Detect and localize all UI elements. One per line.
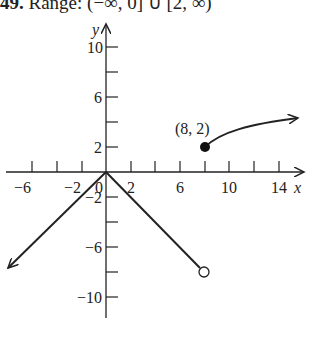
x-tick-labels: −6 −2 0 2 6 10 14 x bbox=[14, 179, 301, 196]
svg-text:10: 10 bbox=[87, 39, 103, 56]
svg-text:14: 14 bbox=[271, 179, 287, 196]
svg-text:6: 6 bbox=[94, 89, 102, 106]
x-ticks bbox=[32, 161, 279, 172]
svg-text:−10: −10 bbox=[77, 289, 102, 306]
svg-text:2: 2 bbox=[94, 139, 102, 156]
closed-endpoint bbox=[200, 142, 210, 152]
svg-text:−6: −6 bbox=[85, 239, 102, 256]
middle-branch-line bbox=[106, 172, 200, 268]
svg-text:−2: −2 bbox=[85, 189, 102, 206]
svg-text:−2: −2 bbox=[64, 179, 81, 196]
svg-text:y: y bbox=[90, 21, 100, 39]
svg-text:10: 10 bbox=[221, 179, 237, 196]
point-label: (8, 2) bbox=[175, 120, 210, 138]
right-branch-curve bbox=[205, 118, 298, 147]
svg-text:−6: −6 bbox=[14, 179, 31, 196]
svg-text:x: x bbox=[293, 179, 301, 196]
y-tick-labels: y 10 6 2 −2 −6 −10 bbox=[77, 21, 103, 306]
open-endpoint bbox=[199, 267, 209, 277]
graph: −6 −2 0 2 6 10 14 x y 10 6 2 −2 −6 −10 (… bbox=[0, 0, 314, 338]
svg-text:6: 6 bbox=[176, 179, 184, 196]
